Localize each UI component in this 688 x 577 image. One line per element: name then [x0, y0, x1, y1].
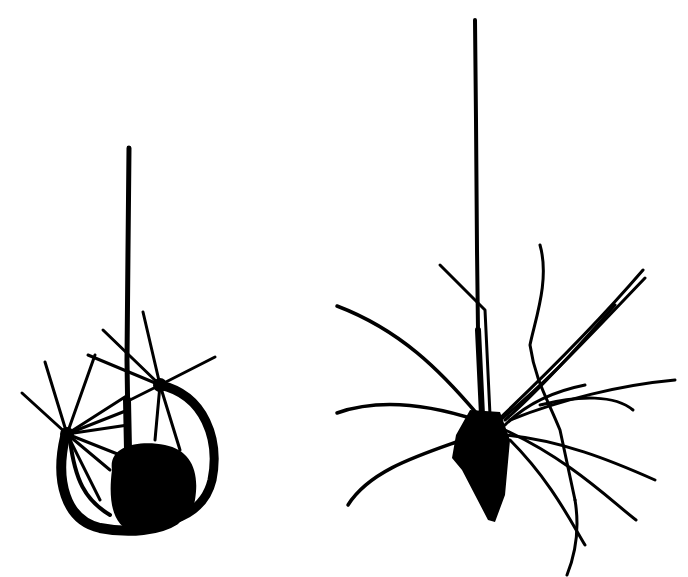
- figure-canvas: [0, 0, 688, 577]
- neuron-drawing-left: [0, 0, 688, 577]
- right-neuron: [337, 20, 675, 575]
- left-neuron: [22, 148, 215, 533]
